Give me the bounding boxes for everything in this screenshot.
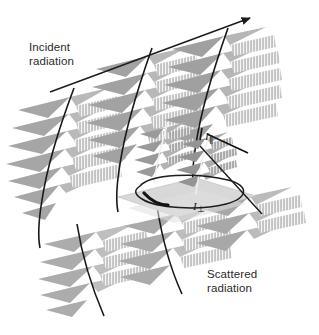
scattering-diagram-figure: Incident radiation Scattered radiation I… xyxy=(0,0,319,335)
intensity-perpendicular-subscript: ⊥ xyxy=(197,204,205,214)
incident-wave-train-left xyxy=(6,88,126,248)
incident-wave-train-left-lower xyxy=(38,223,152,317)
incident-radiation-label: Incident radiation xyxy=(29,41,74,68)
intensity-parallel-symbol: I∥ xyxy=(205,130,214,144)
scattered-radiation-label: Scattered radiation xyxy=(207,268,257,295)
intensity-parallel-subscript: ∥ xyxy=(209,134,214,144)
intensity-perpendicular-symbol: I⊥ xyxy=(193,200,205,214)
